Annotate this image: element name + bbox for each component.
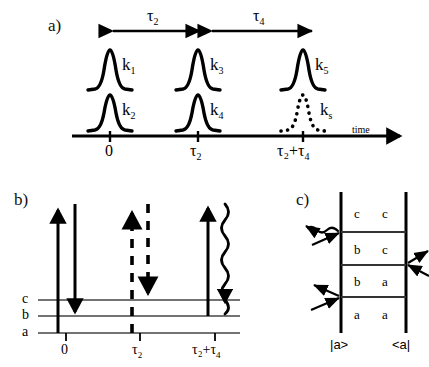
pulse-label-k1: k1 xyxy=(122,56,136,76)
feynman-cell-bra-aa: a xyxy=(382,308,388,321)
panel-c xyxy=(306,192,429,333)
tau2-span-label: τ2 xyxy=(147,8,158,27)
feynman-cell-ket-cc: c xyxy=(354,207,360,220)
pulse-label-ks: ks xyxy=(320,101,332,121)
pulse-label-k3: k3 xyxy=(210,56,224,76)
time-axis xyxy=(72,131,400,142)
transition-arrow-emission xyxy=(222,204,229,314)
interaction-out-bottom-left xyxy=(314,285,339,296)
axis-tick-tau2: τ2 xyxy=(190,143,201,162)
panel-label-a: a) xyxy=(48,16,61,36)
axis-tick-tau2-plus-tau4: τ₂+τ4 xyxy=(277,143,309,162)
figure-container: a) b) c) τ2 τ4 k1 k2 k3 k4 k5 ks 0 τ2 τ₂… xyxy=(0,0,429,367)
panel-b xyxy=(38,204,240,341)
panel-label-c: c) xyxy=(296,190,309,210)
axis-title-time: time xyxy=(352,125,370,135)
interaction-in-top-left xyxy=(312,233,339,245)
panel-b-tick-tau2: τ2 xyxy=(132,343,142,360)
energy-level-label-b: b xyxy=(22,308,29,322)
feynman-cell-bra-cc: c xyxy=(382,207,388,220)
feynman-ket-label: |a> xyxy=(330,338,348,351)
energy-level-label-c: c xyxy=(22,292,28,306)
pulse-ks xyxy=(281,95,325,131)
feynman-cell-bra-bc: c xyxy=(382,243,388,256)
pulse-label-k4: k4 xyxy=(210,101,224,121)
tau4-span-label: τ4 xyxy=(253,8,264,27)
panel-b-tick-0: 0 xyxy=(61,343,68,357)
interaction-in-right xyxy=(408,265,429,276)
interaction-emission-wavy xyxy=(306,226,338,233)
panel-a xyxy=(72,31,400,142)
panel-b-tick-tau2-plus-tau4: τ₂+τ4 xyxy=(192,343,221,360)
energy-level-label-a: a xyxy=(22,325,28,339)
pulse-label-k2: k2 xyxy=(122,101,136,121)
panel-b-time-ticks xyxy=(66,333,215,341)
feynman-cell-ket-bc: b xyxy=(354,243,361,256)
feynman-cell-ket-ba: b xyxy=(354,275,361,288)
panel-label-b: b) xyxy=(14,190,28,210)
pulse-label-k5: k5 xyxy=(315,56,329,76)
axis-tick-0: 0 xyxy=(105,143,113,159)
feynman-cell-bra-ba: a xyxy=(382,275,388,288)
feynman-cell-ket-aa: a xyxy=(354,308,360,321)
interaction-out-right xyxy=(408,251,428,263)
interaction-in-bottom-left xyxy=(311,298,339,310)
feynman-bra-label: <a| xyxy=(392,338,410,351)
